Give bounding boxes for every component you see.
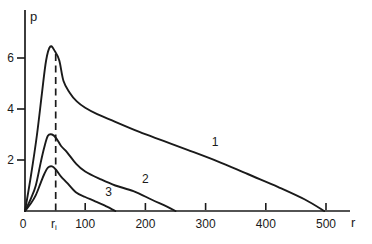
curve-3-label: 3 [105,185,112,199]
x-tick-label: 500 [316,217,336,231]
x-tick-label: 100 [75,217,95,231]
guide-label-subscript: i [55,223,57,232]
pressure-radius-chart: 100200300400500 246 123 p r 0 ri [0,0,372,244]
origin-tick-label: 0 [20,217,27,231]
y-axis-label: p [30,9,37,24]
x-tick-label: 400 [256,217,276,231]
x-axis-label: r [351,215,356,230]
curve-labels: 123 [105,135,219,199]
y-axis-ticks: 246 [7,51,25,167]
curve-1-label: 1 [212,135,219,149]
x-axis-ticks: 100200300400500 [75,203,336,231]
y-tick-label: 6 [7,51,14,65]
pressure-vs-radius-figure: 100200300400500 246 123 p r 0 ri [0,0,372,244]
curve-2-path [25,134,176,211]
curves [25,46,324,211]
x-tick-label: 300 [196,217,216,231]
x-tick-label: 200 [135,217,155,231]
y-tick-label: 4 [7,102,14,116]
guide-tick-label: ri [51,217,57,232]
y-tick-label: 2 [7,153,14,167]
axes [25,10,350,212]
curve-2-label: 2 [142,172,149,186]
